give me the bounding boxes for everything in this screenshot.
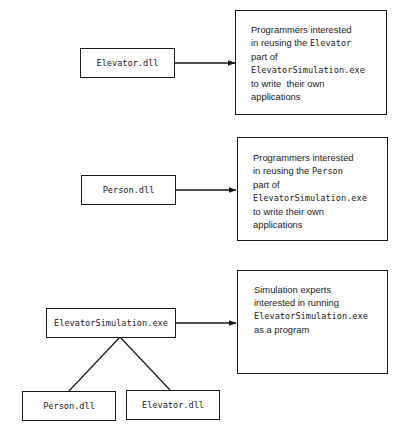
- dependency-elevator-dll-label: Elevator.dll: [142, 400, 204, 410]
- text-line: part of: [251, 50, 365, 63]
- person-dll-label: Person.dll: [103, 185, 155, 195]
- text-line: Programmers interested: [253, 151, 367, 164]
- text-line: ElevatorSimulation.exe: [254, 309, 368, 323]
- person-dll-box: Person.dll: [81, 175, 176, 205]
- elevator-simulation-exe-label: ElevatorSimulation.exe: [54, 318, 168, 328]
- elevator-audience-text: Programmers interested in reusing the El…: [251, 23, 365, 103]
- person-audience-text: Programmers interested in reusing the Pe…: [253, 151, 367, 231]
- diagram-canvas: Elevator.dll Programmers interested in r…: [0, 0, 405, 448]
- text-line: applications: [253, 218, 367, 231]
- text-line: interested in running: [254, 296, 368, 309]
- text-line: in reusing the Elevator: [251, 36, 365, 50]
- dependency-elevator-dll-box: Elevator.dll: [126, 390, 220, 420]
- dependency-person-dll-label: Person.dll: [43, 401, 95, 411]
- elevator-dll-box: Elevator.dll: [80, 48, 175, 78]
- elevator-simulation-exe-box: ElevatorSimulation.exe: [46, 308, 176, 338]
- text-line: applications: [251, 90, 365, 103]
- text-line: in reusing the Person: [253, 164, 367, 178]
- text-line: Simulation experts: [254, 283, 368, 296]
- text-line: as a program: [254, 323, 368, 336]
- text-line: Programmers interested: [251, 23, 365, 36]
- text-line: part of: [253, 178, 367, 191]
- text-line: to write their own: [253, 205, 367, 218]
- dependency-person-dll-box: Person.dll: [22, 391, 116, 421]
- text-line: ElevatorSimulation.exe: [251, 63, 365, 77]
- text-line: to write their own: [251, 77, 365, 90]
- text-line: ElevatorSimulation.exe: [253, 191, 367, 205]
- simulation-audience-text: Simulation experts interested in running…: [254, 283, 368, 336]
- dependency-line-person: [69, 337, 120, 391]
- elevator-dll-label: Elevator.dll: [96, 58, 158, 68]
- dependency-line-elevator: [120, 337, 170, 390]
